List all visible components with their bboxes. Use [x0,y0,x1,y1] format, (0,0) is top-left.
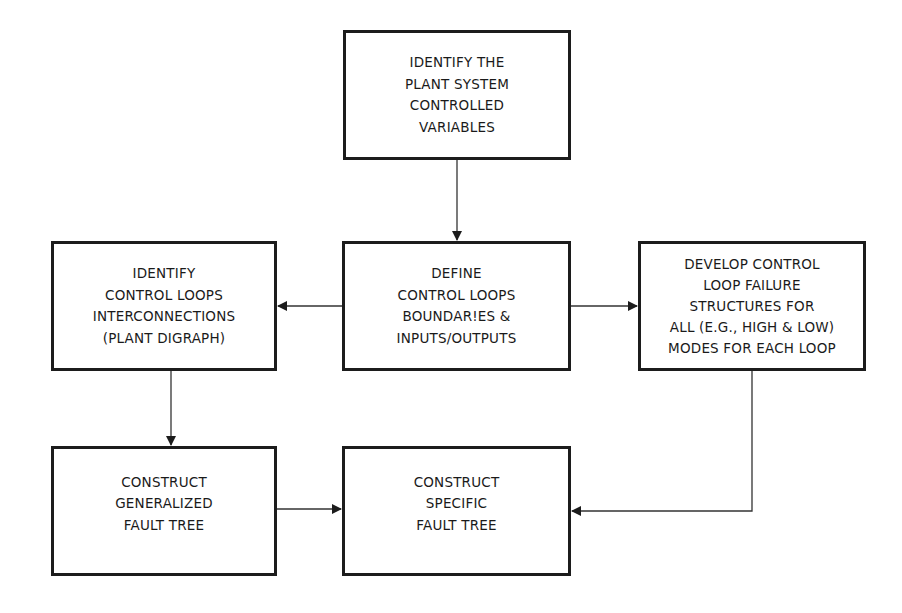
node-label: DEFINE CONTROL LOOPS BOUNDAR!ES & INPUTS… [397,263,517,349]
node-define-control-loops: DEFINE CONTROL LOOPS BOUNDAR!ES & INPUTS… [342,241,571,371]
node-identify-interconnections: IDENTIFY CONTROL LOOPS INTERCONNECTIONS … [51,241,277,371]
node-label-line: (PLANT DIGRAPH) [103,328,226,350]
node-label-line: CONTROL LOOPS [398,285,516,307]
node-label-line: VARIABLES [419,117,495,139]
node-label: DEVELOP CONTROL LOOP FAILURE STRUCTURES … [668,254,836,359]
node-label-line: INPUTS/OUTPUTS [397,328,517,350]
node-label-line: DEFINE [431,263,482,285]
node-label: IDENTIFY CONTROL LOOPS INTERCONNECTIONS … [93,263,236,349]
node-label-line: GENERALIZED [115,493,213,515]
node-label-line: CONSTRUCT [414,472,500,494]
node-label-line: BOUNDAR!ES & [402,306,510,328]
node-label-line: MODES FOR EACH LOOP [668,338,836,359]
node-construct-specific-fault-tree: CONSTRUCT SPECIFIC FAULT TREE [342,446,571,576]
node-label-line: IDENTIFY THE [410,52,505,74]
node-label-line: INTERCONNECTIONS [93,306,236,328]
node-develop-failure-structures: DEVELOP CONTROL LOOP FAILURE STRUCTURES … [638,241,866,371]
node-identify-plant-variables: IDENTIFY THE PLANT SYSTEM CONTROLLED VAR… [343,30,571,160]
node-label-line: CONTROL LOOPS [105,285,223,307]
node-label-line: FAULT TREE [124,515,205,537]
node-label-line: STRUCTURES FOR [690,296,815,317]
node-label-line: DEVELOP CONTROL [684,254,820,275]
node-label: CONSTRUCT GENERALIZED FAULT TREE [115,472,213,537]
node-construct-generalized-fault-tree: CONSTRUCT GENERALIZED FAULT TREE [51,446,277,576]
node-label-line: SPECIFIC [426,493,487,515]
node-label: IDENTIFY THE PLANT SYSTEM CONTROLLED VAR… [405,52,509,138]
node-label-line: ALL (E.G., HIGH & LOW) [670,317,835,338]
node-label: CONSTRUCT SPECIFIC FAULT TREE [414,472,500,537]
arrow-develop-to-specific [572,371,752,511]
node-label-line: CONTROLLED [410,95,504,117]
node-label-line: FAULT TREE [416,515,497,537]
node-label-line: PLANT SYSTEM [405,74,509,96]
node-label-line: IDENTIFY [133,263,196,285]
node-label-line: CONSTRUCT [121,472,207,494]
node-label-line: LOOP FAILURE [703,275,801,296]
